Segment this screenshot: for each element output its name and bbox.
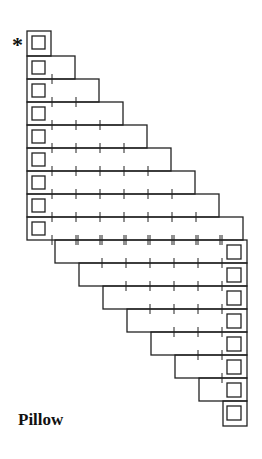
- stitch-box-icon: [227, 268, 241, 282]
- stitch-box-icon: [227, 245, 241, 259]
- row-8: [27, 194, 219, 217]
- pillow-diagram: [0, 0, 262, 459]
- stitch-box-icon: [227, 406, 241, 420]
- stitch-box-icon: [227, 291, 241, 305]
- stitch-box-icon: [32, 153, 45, 166]
- stitch-box-icon: [32, 107, 45, 120]
- stitch-box-icon: [32, 84, 45, 97]
- stitch-box-icon: [32, 36, 45, 49]
- stitch-box-icon: [32, 61, 45, 74]
- row-10: [55, 240, 247, 263]
- row-12: [103, 286, 247, 309]
- row-4: [27, 102, 123, 125]
- row-2: [27, 56, 75, 79]
- stitch-box-icon: [32, 130, 45, 143]
- row-6: [27, 148, 171, 171]
- stitch-box-icon: [227, 360, 241, 374]
- row-9: [27, 217, 243, 240]
- stitch-box-icon: [227, 383, 241, 397]
- row-3: [27, 79, 99, 102]
- stitch-box-icon: [227, 337, 241, 351]
- start-marker: *: [12, 34, 23, 56]
- stitch-box-icon: [32, 176, 45, 189]
- stitch-box-icon: [227, 314, 241, 328]
- row-1: [27, 31, 51, 56]
- stitch-box-icon: [32, 199, 45, 212]
- diagram-title: Pillow: [18, 410, 63, 430]
- stitch-box-icon: [32, 222, 45, 235]
